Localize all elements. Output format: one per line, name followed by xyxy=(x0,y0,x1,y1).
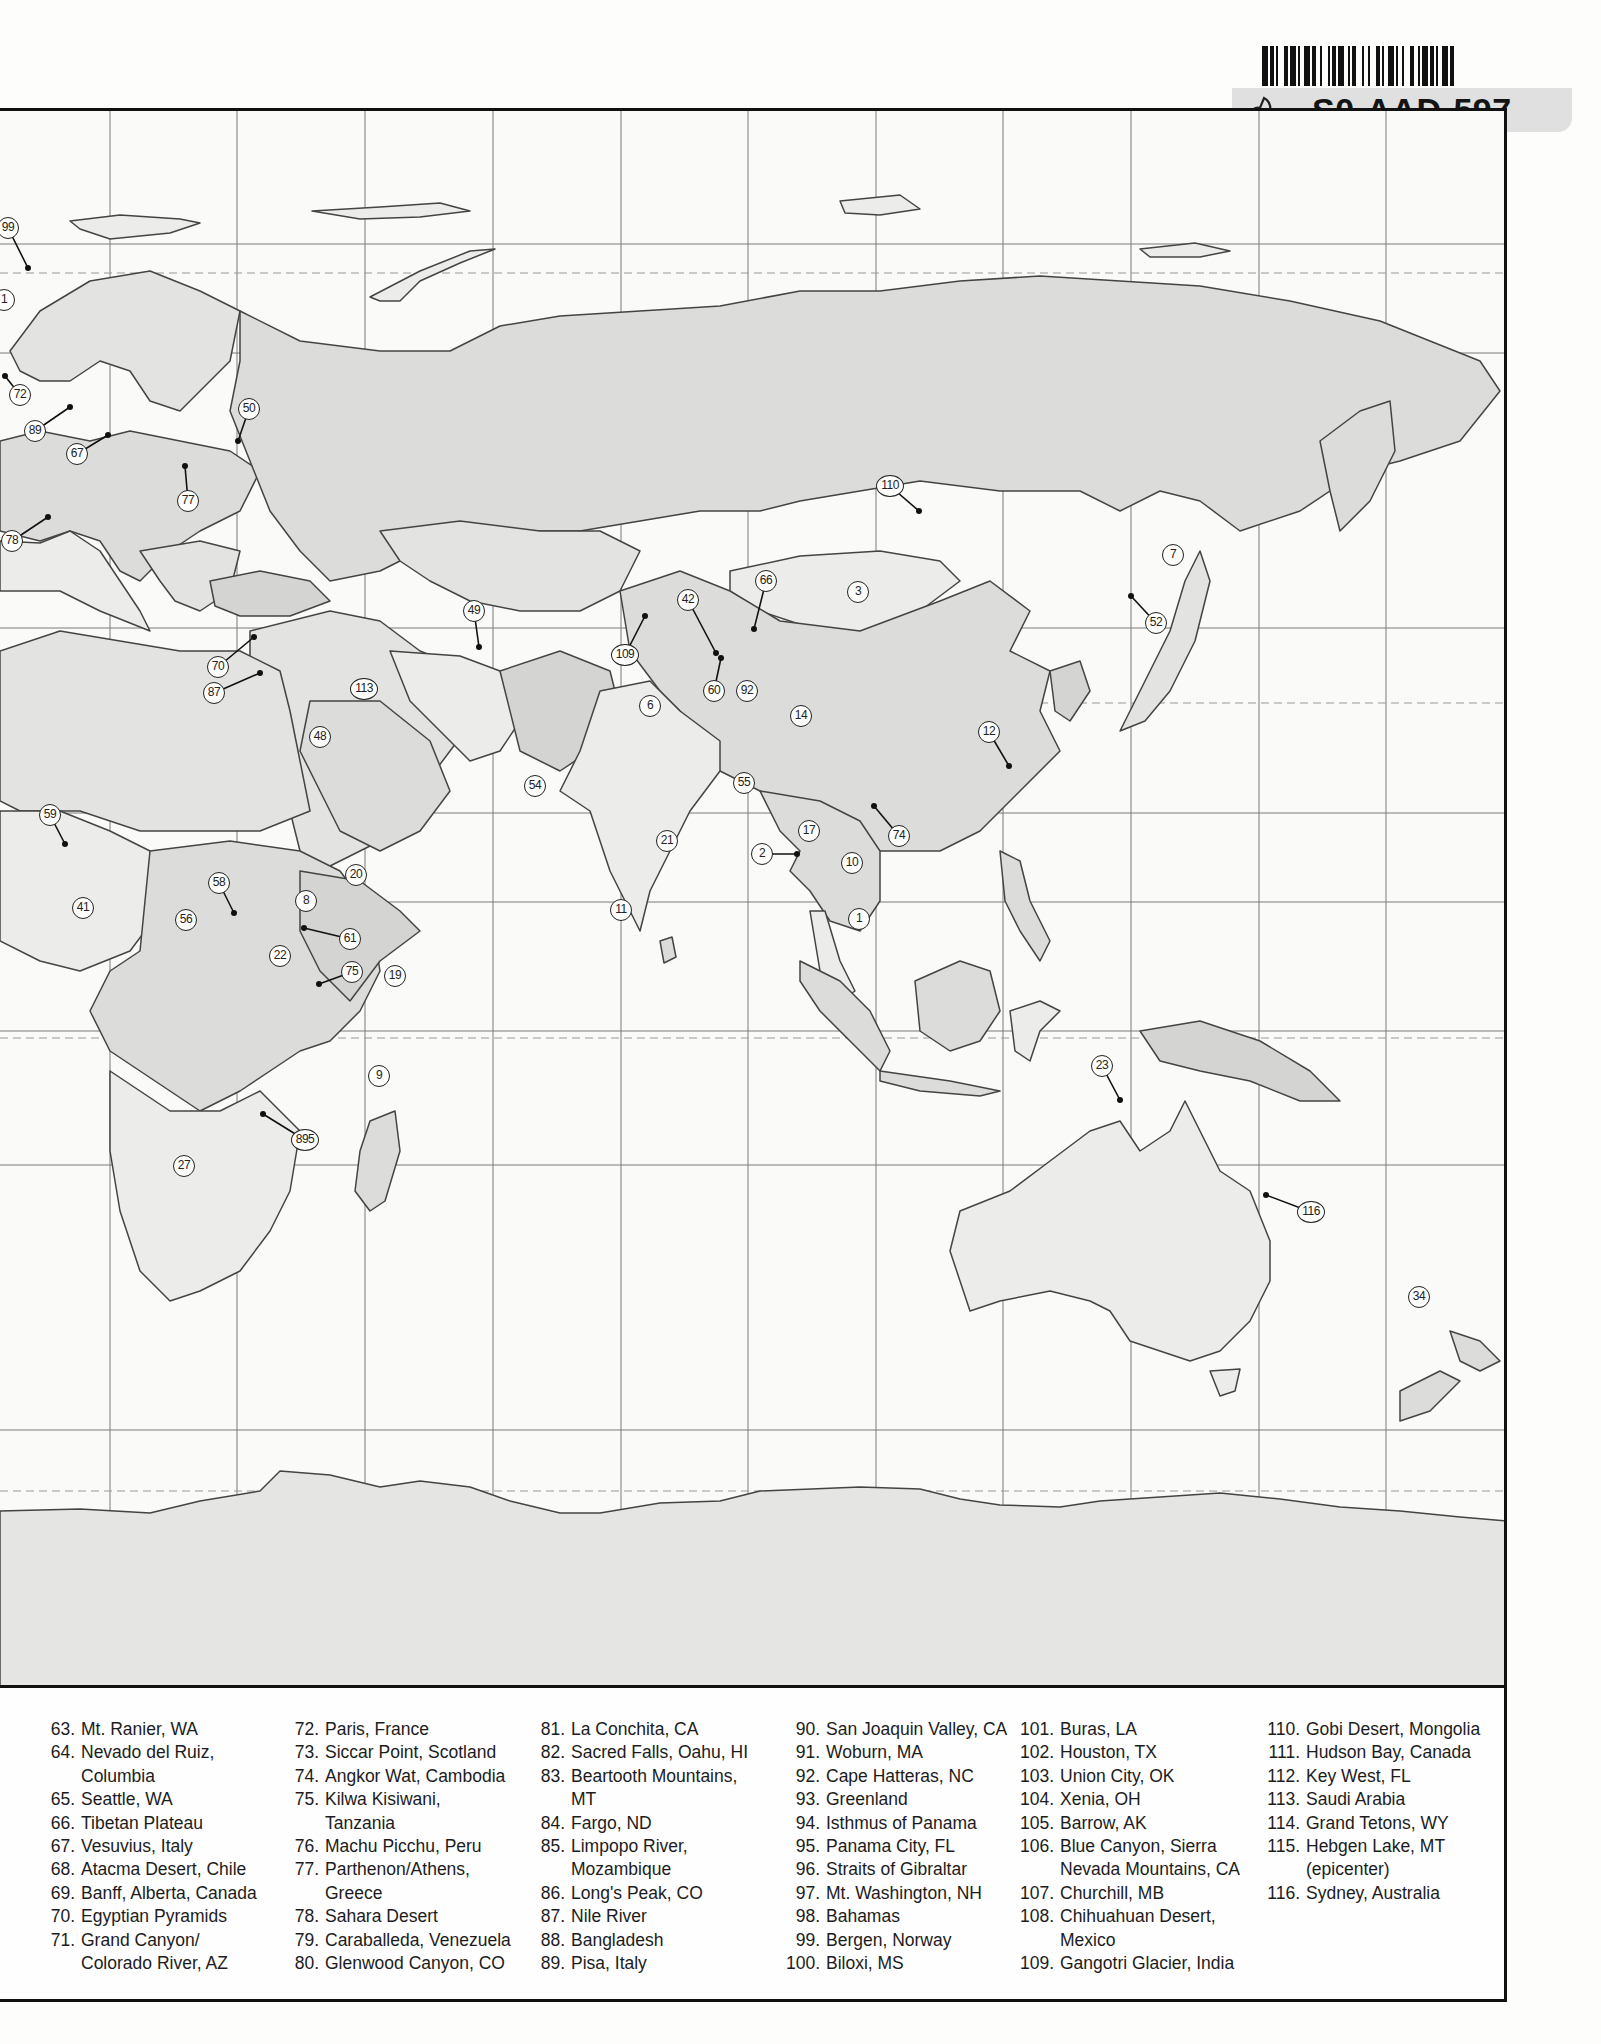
legend-label: Caraballeda, Venezuela xyxy=(319,1929,511,1952)
location-dot xyxy=(67,404,73,410)
location-dot xyxy=(713,650,719,656)
legend-item: 100.Biloxi, MS xyxy=(780,1952,1007,1975)
legend-item: 88.Bangladesh xyxy=(533,1929,748,1952)
legend-number: 113. xyxy=(1258,1788,1300,1811)
legend-item: 66.Tibetan Plateau xyxy=(43,1812,257,1835)
legend-item: 90.San Joaquin Valley, CA xyxy=(780,1718,1007,1741)
legend-number: 65. xyxy=(43,1788,75,1811)
legend-item-continuation: Greece xyxy=(287,1882,511,1905)
location-dot xyxy=(62,841,68,847)
legend-label: Panama City, FL xyxy=(820,1835,955,1858)
legend-number: 86. xyxy=(533,1882,565,1905)
legend-number: 77. xyxy=(287,1858,319,1881)
legend-column: 110.Gobi Desert, Mongolia111.Hudson Bay,… xyxy=(1258,1718,1480,1905)
new-guinea xyxy=(1140,1021,1340,1101)
java xyxy=(880,1071,1000,1096)
legend-label-continuation: Mozambique xyxy=(565,1858,671,1881)
legend-number: 63. xyxy=(43,1718,75,1741)
legend-label: Grand Tetons, WY xyxy=(1300,1812,1449,1835)
legend-label: Parthenon/Athens, xyxy=(319,1858,470,1881)
legend-item-continuation: Tanzania xyxy=(287,1812,511,1835)
world-map: 9917289675077787087113491096485442666092… xyxy=(0,108,1507,1688)
legend-number: 64. xyxy=(43,1741,75,1764)
map-marker-78: 78 xyxy=(1,530,23,552)
map-marker-72: 72 xyxy=(9,384,31,406)
legend-label: Fargo, ND xyxy=(565,1812,652,1835)
legend-column: 101.Buras, LA102.Houston, TX103.Union Ci… xyxy=(1012,1718,1240,1975)
location-dot xyxy=(235,438,241,444)
legend-label: Nile River xyxy=(565,1905,647,1928)
legend-label: Angkor Wat, Cambodia xyxy=(319,1765,505,1788)
map-marker-2: 2 xyxy=(751,843,773,865)
new-zealand-north xyxy=(1450,1331,1500,1371)
map-marker-113: 113 xyxy=(350,678,378,700)
map-marker-11: 11 xyxy=(610,899,632,921)
legend-label: Chihuahuan Desert, xyxy=(1054,1905,1216,1928)
legend-column: 63.Mt. Ranier, WA64.Nevado del Ruiz,Colu… xyxy=(43,1718,257,1975)
location-dot xyxy=(1128,593,1134,599)
map-marker-54: 54 xyxy=(524,775,546,797)
legend-item: 114.Grand Tetons, WY xyxy=(1258,1812,1480,1835)
legend-label: Kilwa Kisiwani, xyxy=(319,1788,441,1811)
map-marker-19: 19 xyxy=(384,965,406,987)
legend-item: 101.Buras, LA xyxy=(1012,1718,1240,1741)
location-dot xyxy=(476,644,482,650)
legend-item: 74.Angkor Wat, Cambodia xyxy=(287,1765,511,1788)
legend-number: 82. xyxy=(533,1741,565,1764)
legend-label: Xenia, OH xyxy=(1054,1788,1141,1811)
map-marker-48: 48 xyxy=(309,726,331,748)
legend-label: Sahara Desert xyxy=(319,1905,438,1928)
legend-number: 95. xyxy=(780,1835,820,1858)
location-dot xyxy=(751,626,757,632)
novaya-zemlya xyxy=(370,249,495,301)
map-marker-56: 56 xyxy=(175,909,197,931)
legend-item-continuation: MT xyxy=(533,1788,748,1811)
legend-item: 84.Fargo, ND xyxy=(533,1812,748,1835)
legend-item: 86.Long's Peak, CO xyxy=(533,1882,748,1905)
legend-item: 99.Bergen, Norway xyxy=(780,1929,1007,1952)
legend-label: Siccar Point, Scotland xyxy=(319,1741,496,1764)
legend-number: 80. xyxy=(287,1952,319,1975)
map-marker-52: 52 xyxy=(1145,612,1167,634)
legend-label-continuation: MT xyxy=(565,1788,596,1811)
legend-number: 83. xyxy=(533,1765,565,1788)
barcode-icon xyxy=(1262,46,1562,86)
legend-label-continuation: Mexico xyxy=(1054,1929,1115,1952)
map-marker-1: 1 xyxy=(848,908,870,930)
legend-label: Churchill, MB xyxy=(1054,1882,1164,1905)
legend-number: 90. xyxy=(780,1718,820,1741)
location-dot xyxy=(794,851,800,857)
legend-label: Machu Picchu, Peru xyxy=(319,1835,482,1858)
legend-indent xyxy=(1012,1929,1054,1952)
legend-indent xyxy=(1012,1858,1054,1881)
legend-label: Beartooth Mountains, xyxy=(565,1765,737,1788)
legend-label: Buras, LA xyxy=(1054,1718,1137,1741)
legend-item: 75.Kilwa Kisiwani, xyxy=(287,1788,511,1811)
japan xyxy=(1120,551,1210,731)
legend-label: Saudi Arabia xyxy=(1300,1788,1405,1811)
legend-column: 81.La Conchita, CA82.Sacred Falls, Oahu,… xyxy=(533,1718,748,1975)
map-marker-22: 22 xyxy=(269,945,291,967)
map-marker-12: 12 xyxy=(978,721,1000,743)
legend-number: 96. xyxy=(780,1858,820,1881)
legend-label: Sydney, Australia xyxy=(1300,1882,1440,1905)
legend-indent xyxy=(287,1882,319,1905)
legend-label: Gobi Desert, Mongolia xyxy=(1300,1718,1480,1741)
location-dot xyxy=(1006,763,1012,769)
legend-item: 67.Vesuvius, Italy xyxy=(43,1835,257,1858)
legend-item: 72.Paris, France xyxy=(287,1718,511,1741)
legend-label: Biloxi, MS xyxy=(820,1952,904,1975)
legend-item: 98.Bahamas xyxy=(780,1905,1007,1928)
legend-item: 70.Egyptian Pyramids xyxy=(43,1905,257,1928)
map-marker-21: 21 xyxy=(656,830,678,852)
legend-indent xyxy=(287,1812,319,1835)
legend-label: Atacma Desert, Chile xyxy=(75,1858,246,1881)
location-dot xyxy=(257,670,263,676)
legend-label-continuation: Nevada Mountains, CA xyxy=(1054,1858,1240,1881)
legend-number: 114. xyxy=(1258,1812,1300,1835)
legend-label: Mt. Ranier, WA xyxy=(75,1718,198,1741)
legend-number: 67. xyxy=(43,1835,75,1858)
legend-item: 108.Chihuahuan Desert, xyxy=(1012,1905,1240,1928)
location-dot xyxy=(1263,1192,1269,1198)
legend-item-continuation: Colorado River, AZ xyxy=(43,1952,257,1975)
